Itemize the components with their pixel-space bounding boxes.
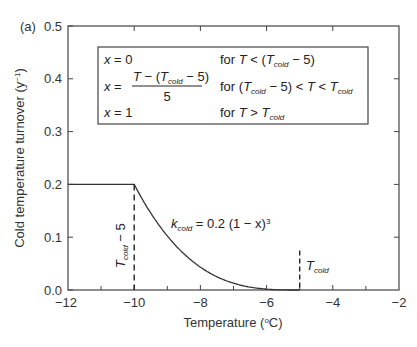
- equation-box: x = 0 for T < (Tcold − 5) x = T − (Tcold…: [98, 47, 368, 124]
- y-tick-0.5: 0.5: [44, 19, 62, 34]
- chart-canvas: (a) 0.0 0.1 0.2 0.3 0: [0, 0, 417, 347]
- curve-label: kcold = 0.2 (1 − x)3: [171, 216, 271, 233]
- x-tick-minus12: −12: [55, 295, 77, 310]
- y-tick-0.3: 0.3: [44, 124, 62, 139]
- x-tick-minus10: −10: [123, 295, 145, 310]
- y-tick-0.4: 0.4: [44, 71, 62, 86]
- k-cold-curve: [68, 184, 300, 290]
- vline1-label: Tcold − 5: [113, 223, 130, 268]
- x-axis-title: Temperature (oC): [183, 315, 282, 330]
- x-tick-labels: −12 −10 −8 −6 −4 −2: [55, 295, 406, 310]
- box-row3-lhs: x = 1: [103, 105, 133, 120]
- x-tick-minus2: −2: [392, 295, 407, 310]
- box-row1-lhs: x = 0: [103, 52, 133, 67]
- panel-label: (a): [20, 19, 36, 34]
- y-axis-title: Cold temperature turnover (y−1): [12, 68, 27, 248]
- box-row2-cond: for (Tcold − 5) < T < Tcold: [220, 79, 353, 96]
- x-tick-minus4: −4: [325, 295, 340, 310]
- box-row2-denominator: 5: [163, 89, 170, 104]
- y-tick-0.1: 0.1: [44, 230, 62, 245]
- x-tick-minus8: −8: [193, 295, 208, 310]
- y-tick-0.2: 0.2: [44, 177, 62, 192]
- x-tick-minus6: −6: [259, 295, 274, 310]
- box-row1-cond: for T < (Tcold − 5): [220, 52, 315, 69]
- vline2-label: Tcold: [306, 258, 329, 275]
- y-tick-labels: 0.0 0.1 0.2 0.3 0.4 0.5: [44, 19, 62, 298]
- box-row2-lhs: x =: [103, 79, 122, 94]
